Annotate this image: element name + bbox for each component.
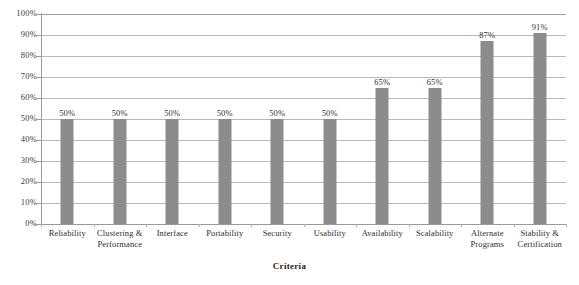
y-axis-tick-label: 20% (4, 177, 37, 186)
y-axis-tick-label: 90% (4, 30, 37, 39)
category-separator (94, 224, 95, 227)
category-separator (461, 224, 462, 227)
bar-slot: 65% (409, 14, 462, 224)
category-separator (41, 224, 42, 227)
bar-value-label: 50% (322, 108, 338, 118)
y-axis-tick-label: 80% (4, 51, 37, 60)
y-axis-tick-label: 0% (4, 219, 37, 228)
x-axis-category-label: Alternate Programs (461, 228, 514, 249)
category-separator (356, 224, 357, 227)
bar-value-label: 50% (164, 108, 180, 118)
bar-value-label: 50% (269, 108, 285, 118)
y-axis-tick-label: 100% (4, 9, 37, 18)
bar[interactable] (376, 88, 389, 225)
bar-value-label: 65% (427, 77, 443, 87)
bar[interactable] (428, 88, 441, 225)
bar-value-label: 50% (217, 108, 233, 118)
x-axis-category-label: Security (251, 228, 304, 239)
category-separator (304, 224, 305, 227)
y-axis-tick-label: 50% (4, 114, 37, 123)
category-separator (251, 224, 252, 227)
y-axis-tick-label: 10% (4, 198, 37, 207)
bar-slot: 91% (514, 14, 567, 224)
bar-slot: 50% (41, 14, 94, 224)
bar[interactable] (271, 119, 284, 224)
bar[interactable] (323, 119, 336, 224)
bar[interactable] (481, 41, 494, 224)
category-separator (514, 224, 515, 227)
x-axis-category-label: Usability (304, 228, 357, 239)
category-separator (409, 224, 410, 227)
bar-value-label: 50% (112, 108, 128, 118)
y-axis-tick-label: 70% (4, 72, 37, 81)
bar-slot: 65% (356, 14, 409, 224)
x-axis-line (34, 224, 566, 225)
bar[interactable] (218, 119, 231, 224)
category-separator (566, 224, 567, 227)
y-axis-tick-label: 30% (4, 156, 37, 165)
x-axis-category-label: Interface (146, 228, 199, 239)
bar[interactable] (166, 119, 179, 224)
x-axis-category-labels: ReliabilityClustering & PerformanceInter… (41, 228, 566, 262)
bar-slot: 50% (304, 14, 357, 224)
bar[interactable] (533, 33, 546, 224)
y-axis-tick-label: 40% (4, 135, 37, 144)
x-axis-category-label: Scalability (409, 228, 462, 239)
bar[interactable] (113, 119, 126, 224)
x-axis-category-label: Availability (356, 228, 409, 239)
bar-value-label: 91% (532, 22, 548, 32)
x-axis-title: Criteria (0, 261, 579, 271)
bar[interactable] (61, 119, 74, 224)
y-axis-tick-label: 60% (4, 93, 37, 102)
bar-slot: 50% (199, 14, 252, 224)
bars-layer: 50%50%50%50%50%50%65%65%87%91% (41, 14, 566, 224)
bar-value-label: 87% (479, 30, 495, 40)
bar-slot: 87% (461, 14, 514, 224)
category-separator (199, 224, 200, 227)
category-separator (146, 224, 147, 227)
bar-value-label: 50% (59, 108, 75, 118)
bar-chart: 100%90%80%70%60%50%40%30%20%10%0% 50%50%… (0, 0, 579, 285)
x-axis-category-label: Stability & Certification (514, 228, 567, 249)
x-axis-category-label: Clustering & Performance (94, 228, 147, 249)
bar-slot: 50% (94, 14, 147, 224)
x-axis-category-label: Portability (199, 228, 252, 239)
bar-value-label: 65% (374, 77, 390, 87)
x-axis-category-label: Reliability (41, 228, 94, 239)
bar-slot: 50% (146, 14, 199, 224)
bar-slot: 50% (251, 14, 304, 224)
y-axis-tick-labels: 100%90%80%70%60%50%40%30%20%10%0% (0, 0, 37, 230)
